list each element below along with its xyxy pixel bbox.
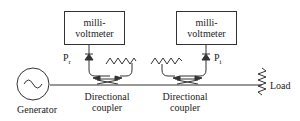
diode-icon [202, 54, 210, 60]
label-coupler-1: Directional coupler [82, 91, 132, 113]
load-resistor-icon [258, 68, 266, 95]
label-load: Load [270, 80, 291, 91]
meter-label-line2: voltmeter [187, 28, 225, 39]
label-generator: Generator [17, 104, 57, 115]
sine-wave-icon [24, 80, 42, 88]
termination-resistor-icon [151, 58, 182, 64]
millivoltmeter-reflected: milli- voltmeter [64, 11, 125, 45]
meter-label-line1: milli- [83, 17, 105, 28]
meter-label-line2: voltmeter [75, 28, 113, 39]
directional-coupler-diagram: milli- voltmeter milli- voltmeter Pr Pi … [0, 0, 300, 121]
meter-label-line1: milli- [195, 17, 217, 28]
label-coupler-2: Directional coupler [160, 91, 210, 113]
diode-icon [85, 54, 93, 60]
label-pi: Pi [214, 52, 222, 68]
millivoltmeter-incident: milli- voltmeter [176, 11, 237, 45]
diagram-lines [0, 0, 300, 121]
label-pr: Pr [63, 52, 71, 68]
